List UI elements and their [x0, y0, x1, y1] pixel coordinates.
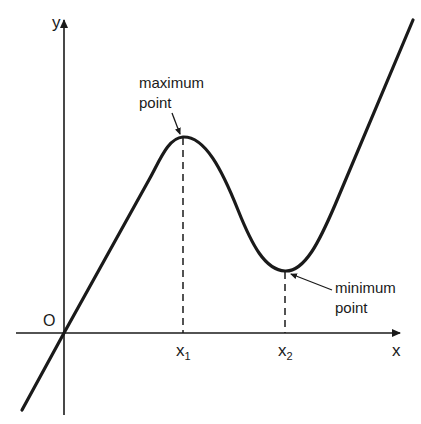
origin-label: O	[43, 312, 55, 329]
minimum-label-line2: point	[335, 299, 368, 316]
maximum-pointer-arrow	[172, 113, 180, 134]
graph-svg: y O x x1 x2 maximum point minimum point	[0, 0, 421, 424]
x2-tick-label: x2	[278, 341, 293, 362]
maximum-label-line2: point	[139, 94, 172, 111]
function-graph-diagram: y O x x1 x2 maximum point minimum point	[0, 0, 421, 424]
minimum-label-line1: minimum	[335, 279, 396, 296]
maximum-label-line1: maximum	[139, 74, 204, 91]
x1-tick-label: x1	[176, 341, 191, 362]
y-axis-label: y	[52, 13, 61, 32]
minimum-pointer-arrow	[291, 274, 332, 290]
function-curve	[22, 20, 413, 410]
x-axis-label: x	[392, 341, 401, 360]
